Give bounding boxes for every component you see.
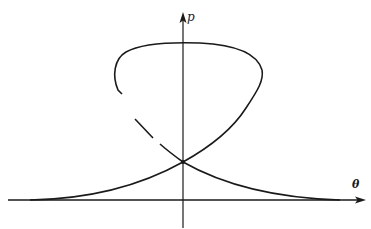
curve-left-tail-to-loop — [30, 70, 262, 200]
curve-loop-top — [115, 43, 262, 94]
curve-loop-dashed-segment — [135, 119, 153, 138]
theta-axis-label: θ — [352, 179, 359, 190]
intersection-point — [181, 160, 185, 164]
curve-loop-to-right-tail — [160, 144, 340, 200]
p-axis — [180, 12, 187, 228]
phase-diagram — [0, 0, 371, 229]
p-axis-label: p — [187, 11, 195, 23]
